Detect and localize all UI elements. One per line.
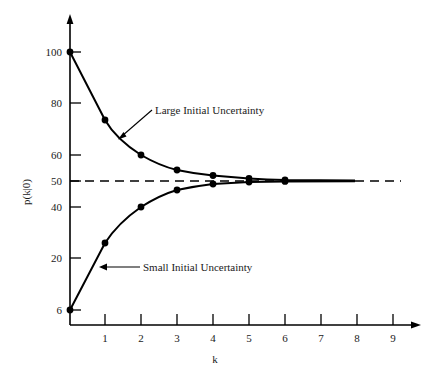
data-point [210, 181, 217, 188]
x-tick-label-5: 5 [246, 332, 252, 344]
x-tick-label-2: 2 [138, 332, 144, 344]
data-point [138, 204, 145, 211]
annotation-large-label: Large Initial Uncertainty [155, 104, 265, 116]
x-tick-label-7: 7 [318, 332, 324, 344]
chart-background [0, 0, 437, 378]
x-tick-label-4: 4 [210, 332, 216, 344]
data-point [210, 172, 217, 179]
chart-figure: 100 80 60 50 40 20 6 1 2 3 4 5 6 [0, 0, 437, 378]
data-point [138, 152, 145, 159]
data-point [282, 178, 289, 185]
x-tick-label-1: 1 [102, 332, 108, 344]
y-tick-label-50: 50 [51, 175, 63, 187]
x-tick-label-3: 3 [174, 332, 180, 344]
y-tick-label-6: 6 [57, 304, 63, 316]
y-tick-label-60: 60 [51, 149, 63, 161]
y-tick-label-80: 80 [51, 97, 63, 109]
data-point [246, 179, 253, 186]
x-tick-label-6: 6 [282, 332, 288, 344]
x-tick-label-9: 9 [390, 332, 396, 344]
data-point [102, 117, 109, 124]
annotation-small-label: Small Initial Uncertainty [143, 261, 253, 273]
data-point [174, 187, 181, 194]
y-axis-title: p(k|0) [20, 179, 33, 205]
data-point [174, 167, 181, 174]
data-point [67, 49, 74, 56]
data-point [67, 307, 74, 314]
y-tick-label-20: 20 [51, 252, 63, 264]
x-tick-label-8: 8 [354, 332, 360, 344]
chart-canvas: 100 80 60 50 40 20 6 1 2 3 4 5 6 [0, 0, 437, 378]
data-point [102, 240, 109, 247]
x-axis-title: k [212, 353, 218, 365]
y-tick-label-40: 40 [51, 201, 63, 213]
y-tick-label-100: 100 [46, 46, 63, 58]
